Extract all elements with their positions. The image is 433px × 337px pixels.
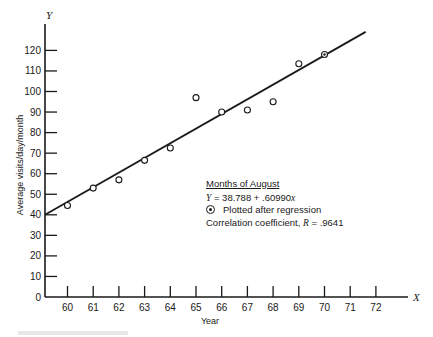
data-point <box>142 157 148 163</box>
y-tick-label: 70 <box>30 148 42 159</box>
y-tick-label: 30 <box>30 230 42 241</box>
data-point <box>90 185 96 191</box>
legend-symbol-entry: Plotted after regression <box>206 204 343 217</box>
x-ticks: 60616263646566676869707172 <box>62 286 382 313</box>
x-tick-label: 67 <box>242 302 254 313</box>
x-axis-letter: X <box>412 291 421 303</box>
legend: Months of August Y = 38.788 + .60990x Pl… <box>206 178 343 229</box>
x-tick-label: 61 <box>88 302 100 313</box>
data-point <box>244 107 250 113</box>
y-tick-label: 110 <box>25 65 41 76</box>
y-tick-label: 80 <box>30 127 42 138</box>
x-tick-label: 66 <box>216 302 228 313</box>
y-tick-label: 10 <box>30 271 42 282</box>
scatter-chart: 0102030405060708090100110120 60616263646… <box>0 0 433 337</box>
x-tick-label: 62 <box>113 302 125 313</box>
x-tick-label: 65 <box>190 302 202 313</box>
x-tick-label: 72 <box>370 302 382 313</box>
x-tick-label: 71 <box>345 302 357 313</box>
figure-caption-cutoff <box>18 331 128 335</box>
y-tick-label: 60 <box>30 168 42 179</box>
data-point <box>167 145 173 151</box>
y-tick-label: 100 <box>24 86 41 97</box>
y-tick-label: 120 <box>24 45 41 56</box>
x-tick-label: 64 <box>165 302 177 313</box>
data-point <box>116 177 122 183</box>
x-tick-label: 63 <box>139 302 151 313</box>
legend-title: Months of August <box>206 178 279 192</box>
y-tick-label: 40 <box>30 209 42 220</box>
y-tick-label: 0 <box>35 292 41 303</box>
y-axis-title: Average visits/day/month <box>15 115 25 215</box>
y-tick-label: 90 <box>30 107 42 118</box>
data-point <box>270 99 276 105</box>
y-ticks: 0102030405060708090100110120 <box>24 45 57 303</box>
x-tick-label: 68 <box>268 302 280 313</box>
y-tick-label: 20 <box>30 250 42 261</box>
data-point <box>193 95 199 101</box>
regression-equation: Y = 38.788 + .60990x <box>206 192 343 205</box>
correlation-entry: Correlation coefficient, R = .9641 <box>206 217 343 230</box>
y-axis-letter: Y <box>46 9 54 21</box>
x-tick-label: 70 <box>319 302 331 313</box>
x-axis-title: Year <box>201 316 219 326</box>
data-point <box>65 203 71 209</box>
circle-dot-marker-icon <box>206 205 215 214</box>
x-tick-label: 60 <box>62 302 74 313</box>
data-point <box>219 109 225 115</box>
x-tick-label: 69 <box>293 302 305 313</box>
data-point <box>296 61 302 67</box>
y-tick-label: 50 <box>30 189 42 200</box>
